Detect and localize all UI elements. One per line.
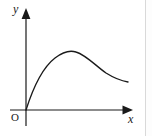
right-edge-gutter xyxy=(146,0,152,136)
y-axis-arrowhead xyxy=(22,8,31,19)
x-axis-label: x xyxy=(128,113,133,125)
right-edge-divider xyxy=(145,0,146,136)
graph-figure: y x O xyxy=(0,0,152,136)
origin-label: O xyxy=(11,112,19,123)
curve-path xyxy=(26,51,128,110)
y-axis-label: y xyxy=(13,3,18,15)
